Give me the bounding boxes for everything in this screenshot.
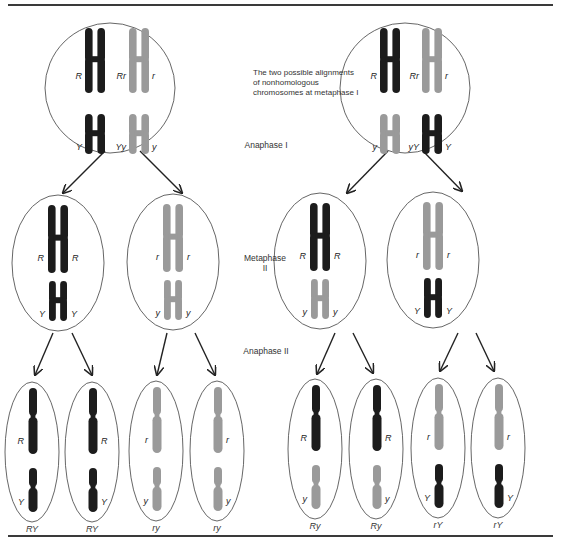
allele-label: Y: [414, 306, 421, 316]
chromosome-light-small: [380, 114, 400, 154]
chromosome-light-small: [164, 280, 182, 320]
allele-label: Y: [71, 309, 78, 319]
allele-label: r: [156, 252, 160, 262]
metaphase-2-cell-2: rryy: [127, 194, 219, 330]
allele-label: y: [151, 142, 157, 152]
allele-label: y: [372, 142, 378, 152]
gamete-genotype-label: ry: [197, 523, 237, 533]
allele-label: Y: [446, 306, 453, 316]
allele-label: r: [187, 252, 191, 262]
alignment-caption: The two possible alignments of nonhomolo…: [253, 68, 358, 98]
chromosome-dark-small: [422, 114, 442, 154]
allele-label: r: [226, 435, 230, 445]
arrow-3: [423, 151, 462, 191]
chromatid-dark-small: [29, 468, 38, 512]
chromosome-light-small: [129, 114, 149, 154]
chromosome-light-small: [311, 279, 329, 319]
metaphase-2-label-line-1: Metaphase: [237, 253, 293, 263]
chromatid-dark-large: [373, 385, 382, 451]
allele-label: Y: [445, 142, 452, 152]
chromatid-light-large: [435, 384, 444, 450]
allele-label: R: [101, 436, 108, 446]
alignment-caption-line-3: chromosomes at metaphase I: [253, 88, 358, 98]
chromosome-light-large: [129, 28, 149, 93]
allele-label: R: [301, 433, 308, 443]
gamete-genotype-label: Ry: [295, 521, 335, 531]
alignment-caption-line-2: of nonhomologous: [253, 78, 358, 88]
allele-label: y: [225, 496, 231, 506]
anaphase-1-label: Anaphase I: [236, 140, 296, 150]
chromatid-light-large: [214, 387, 223, 453]
allele-label: Rr: [117, 71, 127, 81]
chromosome-light-large: [422, 28, 442, 93]
chromatid-light-large: [495, 384, 504, 450]
gamete-cell-4: ry: [190, 381, 244, 521]
chromosome-dark-large: [380, 28, 400, 93]
meiosis-independent-assortment-diagram: RRrrYYyyRRrryyYYRRYYrryyRRyyrrYYRYRYryry…: [0, 0, 561, 543]
chromosome-dark-small: [85, 114, 105, 154]
allele-label: r: [447, 250, 451, 260]
allele-label: y: [155, 308, 161, 318]
cell-membrane: [127, 194, 219, 330]
gamete-cell-7: rY: [411, 378, 465, 518]
chromatid-light-large: [153, 387, 162, 453]
allele-label: Rr: [410, 71, 420, 81]
allele-label: Y: [424, 493, 431, 503]
arrow-2: [347, 151, 388, 193]
arrow-5: [72, 333, 92, 375]
allele-label: R: [38, 253, 45, 263]
arrow-0: [63, 151, 105, 193]
chromatid-light-small: [214, 467, 223, 511]
chromosome-light-large: [163, 204, 183, 272]
allele-label: Yy: [115, 142, 126, 152]
cell-membrane: [387, 192, 479, 328]
allele-label: y: [185, 308, 191, 318]
allele-label: R: [72, 253, 79, 263]
chromatid-dark-small: [435, 464, 444, 508]
allele-label: y: [143, 496, 149, 506]
gamete-cell-5: Ry: [288, 379, 342, 519]
arrow-6: [157, 333, 167, 375]
cell-membrane: [340, 23, 470, 153]
allele-label: r: [152, 71, 156, 81]
allele-label: R: [385, 433, 392, 443]
cell-membrane: [45, 23, 175, 153]
gamete-genotype-label: Ry: [356, 521, 396, 531]
metaphase-2-label-line-2: II: [237, 263, 293, 273]
chromatid-light-small: [312, 465, 321, 509]
chromatid-light-small: [373, 465, 382, 509]
arrow-10: [440, 333, 458, 371]
gamete-cell-2: RY: [65, 382, 119, 522]
allele-label: R: [334, 251, 341, 261]
allele-label: R: [18, 436, 25, 446]
arrow-4: [35, 333, 53, 375]
allele-label: r: [507, 432, 511, 442]
allele-label: r: [427, 432, 431, 442]
alignment-caption-line-1: The two possible alignments: [253, 68, 358, 78]
gamete-genotype-label: rY: [418, 520, 458, 530]
metaphase-2-label: Metaphase II: [237, 253, 293, 273]
gamete-cell-6: Ry: [349, 379, 403, 519]
gamete-cell-3: ry: [129, 381, 183, 521]
chromatid-dark-small: [495, 464, 504, 508]
cell-membrane: [12, 195, 104, 331]
allele-label: Y: [76, 142, 83, 152]
gamete-cell-8: rY: [471, 378, 525, 518]
metaphase-1-cell-alignment-left: RRrrYYyy: [45, 23, 175, 154]
allele-label: Y: [101, 497, 108, 507]
chromosome-dark-large: [310, 203, 330, 271]
chromatid-dark-small: [89, 468, 98, 512]
allele-label: yY: [407, 142, 420, 152]
gamete-genotype-label: rY: [478, 520, 518, 530]
metaphase-1-cell-alignment-right: RRrryyYY: [340, 23, 470, 154]
chromosome-dark-large: [48, 205, 68, 273]
gamete-genotype-label: RY: [72, 524, 112, 534]
gamete-genotype-label: ry: [136, 523, 176, 533]
allele-label: R: [371, 71, 378, 81]
chromosome-dark-small: [424, 278, 442, 318]
allele-label: r: [445, 71, 449, 81]
allele-label: y: [384, 494, 390, 504]
allele-label: Y: [507, 493, 514, 503]
gamete-cell-1: RY: [5, 382, 59, 522]
allele-label: y: [332, 307, 338, 317]
